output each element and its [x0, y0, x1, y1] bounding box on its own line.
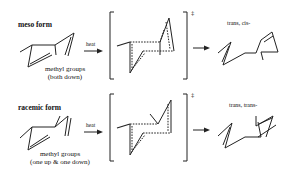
racemic-ts-bracket-right: [183, 94, 187, 161]
racemic-reactant-structure: [20, 116, 71, 150]
meso-substituent-note-line2: (both down): [40, 74, 90, 81]
racemic-heat-condition: heat: [86, 123, 95, 129]
meso-reactant-structure: [20, 33, 74, 67]
racemic-transition-state: [117, 100, 171, 155]
meso-product-label: trans, cis-: [227, 20, 250, 26]
meso-heat-condition: heat: [86, 42, 95, 48]
racemic-ts-bracket-left: [110, 94, 114, 161]
racemic-form-title: racemic form: [18, 104, 61, 112]
meso-transition-state-mark: ‡: [191, 10, 194, 17]
meso-form-title: meso form: [18, 21, 52, 29]
racemic-substituent-note-line2: (one up & one down): [20, 159, 100, 166]
meso-transition-state: [117, 18, 174, 73]
racemic-heat-arrow: [84, 130, 103, 135]
racemic-transition-state-mark: ‡: [191, 92, 194, 99]
meso-ts-bracket-left: [110, 12, 114, 79]
racemic-product-label: trans, trans-: [229, 102, 257, 108]
racemic-product-structure: [218, 116, 276, 148]
racemic-product-arrow: [193, 128, 210, 133]
meso-ts-bracket-right: [183, 12, 187, 79]
meso-substituent-note-line1: methyl groups: [40, 66, 90, 73]
racemic-substituent-note-line1: methyl groups: [20, 151, 100, 158]
meso-product-arrow: [193, 46, 210, 51]
meso-product-structure: [218, 32, 278, 65]
meso-heat-arrow: [84, 49, 103, 54]
reaction-scheme: meso form methyl groups (both down) heat…: [0, 0, 296, 178]
